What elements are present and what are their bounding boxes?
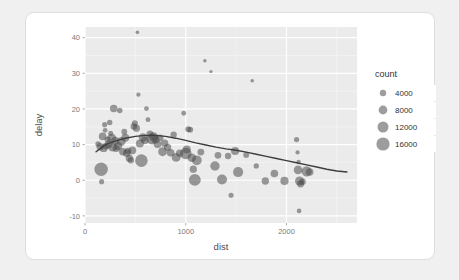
data-point <box>294 137 299 142</box>
data-point <box>128 157 134 163</box>
y-axis-tick-label: 0 <box>76 176 80 185</box>
legend-key-symbol <box>379 106 388 115</box>
data-point <box>215 152 222 159</box>
data-point <box>280 177 288 185</box>
data-point <box>203 59 206 62</box>
y-axis-title: delay <box>33 113 44 136</box>
data-point <box>132 120 138 126</box>
data-point <box>187 127 193 133</box>
y-axis-tick-label: 40 <box>72 33 80 42</box>
data-point <box>295 150 299 154</box>
data-point <box>102 122 107 127</box>
data-point <box>299 178 305 184</box>
y-axis-tick-label: 20 <box>72 105 80 114</box>
x-axis-tick-label: 0 <box>83 227 87 236</box>
data-point <box>229 193 234 198</box>
data-point <box>136 93 140 97</box>
y-axis-tick-label: 30 <box>72 69 80 78</box>
data-point <box>210 161 219 170</box>
legend-key-symbol <box>376 137 389 150</box>
data-point <box>121 129 127 135</box>
legend-key-label: 16000 <box>395 140 418 149</box>
data-point <box>250 79 254 83</box>
x-axis-title: dist <box>214 241 229 252</box>
legend-key-label: 12000 <box>395 123 418 132</box>
data-point <box>105 137 111 143</box>
data-point <box>141 137 149 145</box>
data-point <box>107 120 112 125</box>
x-axis-tick-label: 1000 <box>177 227 194 236</box>
data-point <box>306 168 314 176</box>
data-point <box>262 177 269 184</box>
data-point <box>271 170 279 178</box>
screenshot-root: -10010203040010002000distdelaycount40008… <box>0 0 459 280</box>
data-point <box>217 175 227 185</box>
legend-key-label: 4000 <box>395 89 413 98</box>
scatter-plot: -10010203040010002000distdelaycount40008… <box>26 13 436 261</box>
data-point <box>233 167 243 177</box>
data-point <box>209 70 212 73</box>
data-point <box>197 149 204 156</box>
legend-key-label: 8000 <box>395 106 413 115</box>
data-point <box>154 140 162 148</box>
data-point <box>125 148 132 155</box>
data-point <box>187 153 196 162</box>
data-point <box>95 141 100 146</box>
data-point <box>135 154 148 167</box>
data-point <box>164 144 171 151</box>
data-point <box>225 153 231 159</box>
legend-key-symbol <box>380 90 386 96</box>
y-axis-tick-label: -10 <box>69 212 80 221</box>
legend-title: count <box>375 69 398 79</box>
data-point <box>99 179 104 184</box>
chart-card: -10010203040010002000distdelaycount40008… <box>25 12 435 260</box>
x-axis-tick-label: 2000 <box>278 227 295 236</box>
data-point <box>146 117 151 122</box>
legend-key-symbol <box>378 122 389 133</box>
data-point <box>297 209 302 214</box>
data-point <box>108 131 113 136</box>
data-point <box>136 31 140 35</box>
data-point <box>103 128 108 133</box>
plot-panel-background <box>85 27 357 223</box>
data-point <box>294 166 303 175</box>
data-point <box>176 149 183 156</box>
data-point <box>183 146 191 154</box>
data-point <box>144 106 149 111</box>
data-point <box>113 145 120 152</box>
data-point <box>146 130 153 137</box>
data-point <box>181 111 186 116</box>
data-point <box>94 162 107 175</box>
data-point <box>110 105 118 113</box>
data-point <box>189 174 201 186</box>
y-axis-tick-label: 10 <box>72 140 80 149</box>
data-point <box>190 166 197 173</box>
data-point <box>254 163 259 168</box>
chart-plot-area: -10010203040010002000distdelaycount40008… <box>26 13 436 261</box>
data-point <box>117 108 122 113</box>
